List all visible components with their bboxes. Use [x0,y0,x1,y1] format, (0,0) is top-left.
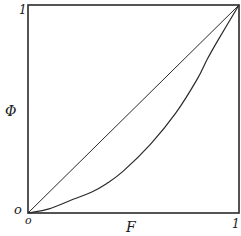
equality-line [28,5,239,213]
x-max-label: 1 [232,217,240,231]
x-axis-label: F [125,219,137,235]
x-origin-label: o [25,214,32,227]
lorenz-chart: 1 Φ o o F 1 [0,0,241,236]
y-max-label: 1 [19,3,27,17]
y-axis-label: Φ [5,103,16,119]
y-origin-label: o [14,202,22,217]
